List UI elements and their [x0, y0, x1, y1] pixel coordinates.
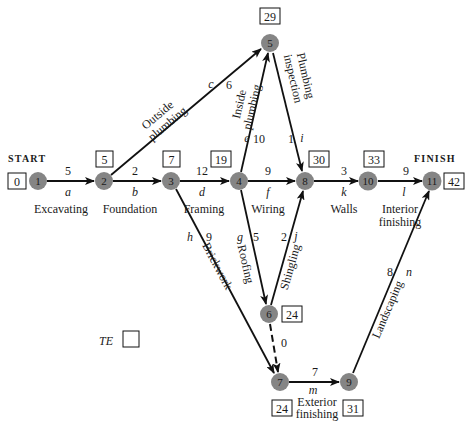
- svg-text:33: 33: [368, 153, 380, 167]
- svg-text:19: 19: [215, 153, 227, 167]
- svg-text:5: 5: [102, 153, 108, 167]
- te-box-node-3: 7: [163, 151, 180, 167]
- edge-c-letter: c: [208, 77, 214, 91]
- edge-g-duration: 5: [253, 230, 259, 244]
- node-1: 1: [29, 172, 47, 190]
- edge-e-duration: 10: [253, 132, 265, 146]
- te-legend-box: [123, 331, 139, 347]
- edge-e-letter: e: [244, 131, 250, 145]
- edge-b-duration: 2: [132, 164, 138, 178]
- finish-label: FINISH: [414, 153, 456, 164]
- edge-d-duration: 12: [196, 164, 208, 178]
- edge-k-name: Walls: [330, 202, 357, 216]
- te-box-node-7: 24: [272, 400, 292, 416]
- te-box-node-6: 24: [282, 306, 302, 322]
- edge-f-name: Wiring: [251, 202, 285, 216]
- pert-network-diagram: START FINISH 1 2 3 4 5 6 7 8 9 10 11 0 5…: [0, 0, 472, 427]
- svg-text:42: 42: [448, 175, 460, 189]
- edge-a-duration: 5: [65, 164, 71, 178]
- edge-k-duration: 3: [341, 164, 347, 178]
- edge-n-letter: n: [406, 265, 412, 279]
- svg-text:2: 2: [101, 175, 107, 187]
- edge-b-letter: b: [132, 185, 138, 199]
- node-8: 8: [296, 172, 314, 190]
- edge-c-duration: 6: [226, 78, 232, 92]
- node-9: 9: [340, 373, 358, 391]
- edge-f-duration: 9: [265, 164, 271, 178]
- node-7: 7: [271, 373, 289, 391]
- edge-b-name: Foundation: [103, 202, 158, 216]
- edge-a-name: Excavating: [34, 202, 88, 216]
- svg-text:24: 24: [276, 402, 288, 416]
- svg-text:3: 3: [168, 175, 174, 187]
- edge-dummy: [270, 324, 278, 372]
- edge-d-letter: d: [199, 185, 206, 199]
- te-box-node-10: 33: [364, 151, 384, 167]
- edge-i-duration: 1: [288, 132, 294, 146]
- te-legend: TE: [99, 331, 139, 348]
- te-box-node-8: 30: [309, 151, 329, 167]
- svg-text:10: 10: [363, 175, 375, 187]
- edge-i-letter: i: [300, 131, 303, 145]
- edge-l-name-line1: Interior: [382, 202, 418, 216]
- edge-dummy-duration: 0: [281, 336, 287, 350]
- svg-text:31: 31: [347, 402, 359, 416]
- te-box-node-1: 0: [8, 173, 26, 189]
- edge-f-letter: f: [266, 185, 271, 199]
- node-11: 11: [423, 172, 442, 191]
- node-10: 10: [359, 172, 378, 191]
- edge-labels: 5 a Excavating 2 b Foundation 12 d Frami…: [34, 50, 421, 421]
- edge-m-duration: 7: [312, 365, 318, 379]
- svg-text:7: 7: [277, 376, 283, 388]
- node-3: 3: [162, 172, 180, 190]
- svg-text:4: 4: [236, 175, 242, 187]
- svg-text:29: 29: [264, 10, 276, 24]
- edge-n-name: Landscaping: [369, 278, 406, 340]
- svg-text:6: 6: [266, 308, 272, 320]
- edge-h-letter: h: [187, 230, 193, 244]
- edge-g-letter: g: [237, 230, 243, 244]
- edge-l-letter: l: [402, 185, 406, 199]
- svg-text:1: 1: [35, 175, 41, 187]
- edge-m-name-line2: finishing: [296, 407, 339, 421]
- start-label: START: [8, 153, 46, 164]
- node-5: 5: [261, 34, 279, 52]
- edge-d-name: Framing: [184, 202, 225, 216]
- node-4: 4: [230, 172, 248, 190]
- svg-text:7: 7: [169, 153, 175, 167]
- svg-text:5: 5: [267, 37, 273, 49]
- edge-j-letter: j: [292, 229, 298, 243]
- edge-h-name: Brickwork: [199, 240, 235, 292]
- node-6: 6: [260, 305, 278, 323]
- node-2: 2: [95, 172, 113, 190]
- svg-text:30: 30: [313, 153, 325, 167]
- svg-text:8: 8: [302, 175, 308, 187]
- edge-k-letter: k: [341, 185, 347, 199]
- edge-j-duration: 2: [281, 230, 287, 244]
- te-box-node-5: 29: [260, 8, 280, 24]
- edge-l-name-line2: finishing: [379, 215, 422, 229]
- svg-text:9: 9: [346, 376, 352, 388]
- svg-text:11: 11: [427, 175, 438, 187]
- svg-text:0: 0: [14, 175, 20, 189]
- svg-text:24: 24: [286, 308, 298, 322]
- te-box-node-11: 42: [444, 173, 464, 189]
- te-box-node-2: 5: [96, 151, 113, 167]
- edge-n-duration: 8: [387, 265, 393, 279]
- te-legend-label: TE: [99, 334, 114, 348]
- te-box-node-9: 31: [343, 400, 363, 416]
- edge-a-letter: a: [65, 185, 71, 199]
- te-box-node-4: 19: [211, 151, 231, 167]
- edge-l-duration: 9: [403, 164, 409, 178]
